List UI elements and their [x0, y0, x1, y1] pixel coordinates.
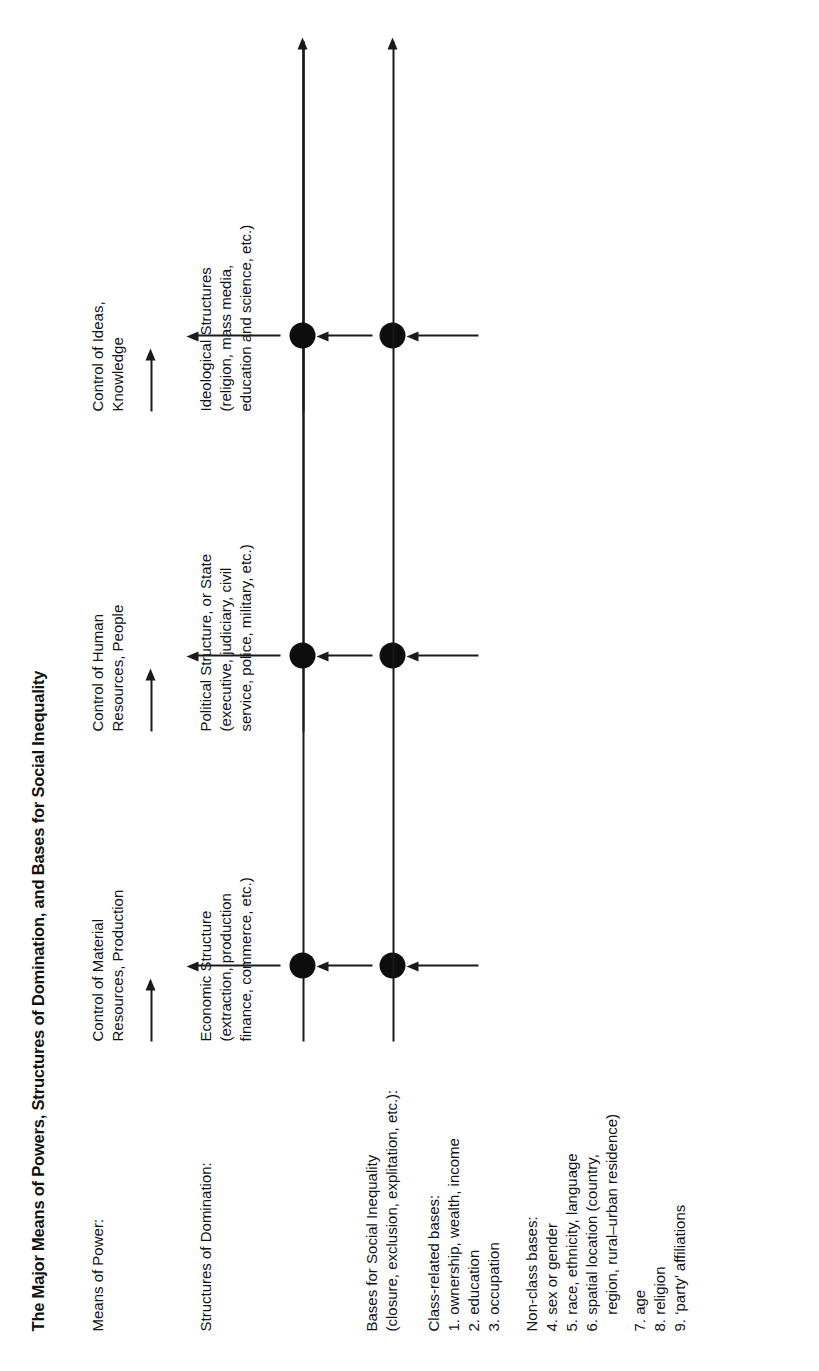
- stem-class-ideological: [326, 334, 372, 336]
- bases-heading-line2: (closure, exclusion, explitation, etc.):: [382, 1089, 400, 1331]
- col-political-link-line: [150, 679, 152, 731]
- class-related-item-3: 3. occupation: [484, 1242, 502, 1331]
- stem-nonclass-arrowhead-political: [406, 651, 418, 661]
- axis-line-economic-lower: [392, 41, 394, 1041]
- non-class-item-8: 8. religion: [650, 1266, 668, 1331]
- col-political-power-line2: Resources, People: [108, 604, 126, 731]
- col-political-structure-line3: service, police, military, etc.): [236, 544, 254, 731]
- figure-canvas: The Major Means of Powers, Structures of…: [0, 0, 819, 1371]
- col-ideological-link-line: [150, 359, 152, 411]
- col-ideological-power-line2: Knowledge: [108, 337, 126, 411]
- non-class-item-9: 9. ‘party’ affiliations: [670, 1204, 688, 1331]
- stem-up-political: [196, 654, 280, 656]
- stem-class-arrowhead-political: [316, 651, 328, 661]
- node-dot-economic-class: [289, 952, 315, 978]
- col-political-structure-line1: Political Structure, or State: [196, 553, 214, 731]
- row-label-means-of-power: Means of Power:: [88, 1218, 106, 1331]
- col-economic-power-line1: Control of Material: [88, 918, 106, 1041]
- stem-class-arrowhead-ideological: [316, 331, 328, 341]
- stem-class-political: [326, 654, 372, 656]
- node-dot-political-class: [289, 642, 315, 668]
- non-class-item-4: 4. sex or gender: [542, 1223, 560, 1331]
- stem-up-arrowhead-economic: [186, 961, 198, 971]
- stem-up-economic: [196, 964, 280, 966]
- axis-arrowhead-economic-lower: [387, 37, 397, 49]
- stem-nonclass-arrowhead-ideological: [406, 331, 418, 341]
- class-related-heading: Class-related bases:: [424, 1194, 442, 1331]
- stem-up-ideological: [196, 334, 280, 336]
- stem-nonclass-economic: [416, 964, 478, 966]
- non-class-item-6: 6. spatial location (country,: [582, 1154, 600, 1331]
- stem-nonclass-political: [416, 654, 478, 656]
- stem-up-arrowhead-political: [186, 651, 198, 661]
- row-label-structures-of-domination: Structures of Domination:: [196, 1162, 214, 1331]
- col-economic-structure-line2: (extraction, production: [216, 893, 234, 1041]
- col-ideological-structure-line2: (religion, mass media,: [216, 264, 234, 411]
- bases-heading-line1: Bases for Social Inequality: [362, 1154, 380, 1331]
- col-political-link-arrowhead: [145, 668, 155, 680]
- non-class-item-7: 7. age: [630, 1289, 648, 1331]
- non-class-item-5: 5. race, ethnicity, language: [562, 1153, 580, 1331]
- figure-title: The Major Means of Powers, Structures of…: [28, 670, 47, 1331]
- col-economic-power-line2: Resources, Production: [108, 889, 126, 1041]
- col-economic-structure-line1: Economic Structure: [196, 910, 214, 1041]
- axis-line-ideological: [302, 41, 304, 411]
- stem-nonclass-arrowhead-economic: [406, 961, 418, 971]
- col-ideological-structure-line1: Ideological Structures: [196, 267, 214, 411]
- col-ideological-power-line1: Control of Ideas,: [88, 301, 106, 411]
- col-political-structure-line2: (executive, judiciary, civil: [216, 567, 234, 731]
- stem-class-arrowhead-economic: [316, 961, 328, 971]
- stem-up-arrowhead-ideological: [186, 331, 198, 341]
- stem-class-economic: [326, 964, 372, 966]
- col-economic-link-line: [150, 989, 152, 1041]
- non-class-heading: Non-class bases:: [522, 1216, 540, 1331]
- col-political-power-line1: Control of Human: [88, 613, 106, 731]
- stem-nonclass-ideological: [416, 334, 478, 336]
- class-related-item-1: 1. ownership, wealth, income: [444, 1138, 462, 1331]
- non-class-item-6-cont: region, rural–urban residence): [602, 1113, 620, 1331]
- figure-page: The Major Means of Powers, Structures of…: [0, 0, 819, 1371]
- col-economic-structure-line3: finance, commerce, etc.): [236, 877, 254, 1041]
- col-ideological-structure-line3: education and science, etc.): [236, 224, 254, 411]
- class-related-item-2: 2. education: [464, 1249, 482, 1331]
- node-dot-ideological-class: [289, 322, 315, 348]
- col-ideological-link-arrowhead: [145, 348, 155, 360]
- col-economic-link-arrowhead: [145, 978, 155, 990]
